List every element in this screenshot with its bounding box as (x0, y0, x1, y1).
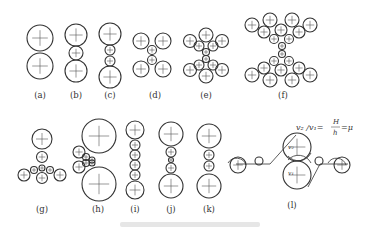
work-roll (203, 49, 210, 56)
roll (166, 147, 176, 157)
backup-roll (82, 167, 116, 201)
roll (130, 170, 140, 180)
roll (279, 51, 286, 58)
backup-roll (197, 124, 221, 148)
panel-label-a: (a) (34, 90, 46, 100)
roll (216, 64, 229, 77)
roll-speed-v2: v₂ (288, 143, 294, 150)
backup-roll (197, 174, 221, 198)
backup-roll (126, 121, 144, 139)
work-roll (148, 46, 157, 55)
work-roll (105, 56, 115, 66)
backup-roll (126, 181, 144, 199)
roll (208, 41, 218, 51)
backup-roll (159, 122, 183, 146)
backup-roll (32, 129, 52, 149)
roll (285, 35, 294, 44)
backup-roll (159, 174, 183, 198)
roll (73, 161, 85, 173)
roll (47, 167, 54, 174)
roll (293, 26, 305, 38)
roll (155, 61, 171, 77)
roll (133, 61, 149, 77)
panel-label-j: (j) (166, 204, 175, 214)
roll (285, 73, 299, 87)
roll (194, 60, 204, 70)
work-roll (105, 45, 115, 55)
roll (166, 163, 176, 173)
roll (258, 26, 270, 38)
work-roll (203, 56, 210, 63)
roll (199, 69, 213, 83)
roll (275, 24, 287, 36)
roll (303, 68, 317, 82)
roll (204, 161, 214, 171)
uncoiler (230, 157, 246, 173)
speed-ratio-equation: v₂ /v₁= H h =μ (296, 118, 353, 137)
equation-rhs: =μ (341, 123, 353, 132)
roll (130, 160, 140, 170)
backup-roll (65, 60, 87, 82)
backup-roll (99, 23, 121, 45)
roll (258, 62, 270, 74)
panel-label-f: (f) (278, 90, 288, 100)
work-roll (148, 56, 157, 65)
work-roll (69, 46, 83, 60)
panel-label-e: (e) (200, 90, 212, 100)
roll (245, 68, 259, 82)
panel-label-d: (d) (149, 90, 161, 100)
roll (18, 169, 30, 181)
panel-label-i: (i) (130, 204, 139, 214)
work-roll (27, 53, 53, 79)
roll (133, 33, 149, 49)
figure-caption-redacted (120, 222, 260, 227)
roll (279, 43, 286, 50)
equation-denominator: h (333, 129, 338, 137)
panel-label-l: (l) (287, 200, 296, 210)
roll (275, 64, 287, 76)
equation-numerator: H (332, 118, 340, 126)
roll (73, 146, 85, 158)
work-roll (169, 158, 174, 163)
roll-speed-v1: v₁ (288, 169, 294, 176)
roll (263, 13, 277, 27)
equation-lhs: v₂ /v₁= (296, 123, 323, 132)
roll (270, 57, 279, 66)
roll (208, 60, 218, 70)
work-roll (39, 165, 45, 171)
roll (130, 140, 140, 150)
panel-label-c: (c) (104, 90, 115, 100)
roll-configuration-diagram: (a) (b) (c) (d) (e) (f) (g) (h) (i) (j) … (0, 0, 367, 231)
roll (37, 152, 48, 163)
backup-roll (65, 24, 87, 46)
roll (54, 169, 66, 181)
roll (263, 73, 277, 87)
backup-roll (99, 66, 121, 88)
panel-label-h: (h) (92, 204, 104, 214)
work-roll (27, 25, 53, 51)
panel-label-k: (k) (203, 204, 215, 214)
roll (155, 33, 171, 49)
panel-label-g: (g) (36, 204, 48, 214)
roll (194, 41, 204, 51)
roll (270, 35, 279, 44)
roll (204, 150, 214, 160)
roll (199, 28, 213, 42)
roll (184, 64, 197, 77)
panel-label-b: (b) (70, 90, 82, 100)
roll (285, 57, 294, 66)
backup-roll (82, 119, 116, 153)
roll (130, 150, 140, 160)
roll (245, 18, 259, 32)
roll (285, 13, 299, 27)
roll (37, 173, 48, 184)
roll (31, 167, 38, 174)
